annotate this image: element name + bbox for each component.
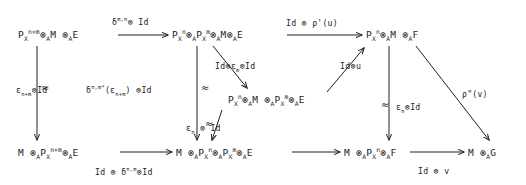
node-bottom-right: M ⊗APXn⊗AF [344,148,396,158]
node-bottom-far-right: M ⊗AG [468,148,496,158]
node-bottom-left: M ⊗APXn+m⊗AE [18,148,78,158]
diagram-arrows [0,0,526,185]
iso-mark-middle: ≈ [201,82,209,93]
label-right-vertical: εn⊗Id [396,103,420,111]
label-middle-vertical: δn,m*(εn+m) ⊗Id [86,86,152,94]
node-center: PXn⊗AM ⊗APXm⊗AE [228,95,305,105]
iso-mark-right: ≈ [381,99,389,110]
iso-mark-left: ≈ [41,82,49,93]
label-bottom-left-arrow: Id ⊗ δn,m⊗Id [95,168,153,176]
iso-mark-center: ≈ [205,118,213,129]
node-top-left: PXn+m⊗AM ⊗AE [18,30,78,40]
node-bottom-middle: M ⊗APXn⊗APXm⊗AE [176,148,253,158]
label-diag-up: Id⊗u [340,62,361,70]
label-diag-down: Id⊗εm⊗Id [215,62,255,70]
node-top-right: PXn⊗AM ⊗AF [366,30,418,40]
label-bottom-right-arrow: Id ⊗ v [418,167,449,175]
label-top-left-arrow: δm,n⊗ Id [112,18,149,26]
node-top-middle: PXn⊗APXm⊗AM⊗AE [172,30,243,40]
label-center-down: εn ⊗ Id [186,124,221,132]
label-top-right-arrow: Id ⊗ ρ'(u) [286,19,338,27]
commutative-diagram: PXn+m⊗AM ⊗AE PXn⊗APXm⊗AM⊗AE PXn⊗AM ⊗AF P… [0,0,526,185]
label-far-right-diag: ρ"(v) [462,90,488,98]
